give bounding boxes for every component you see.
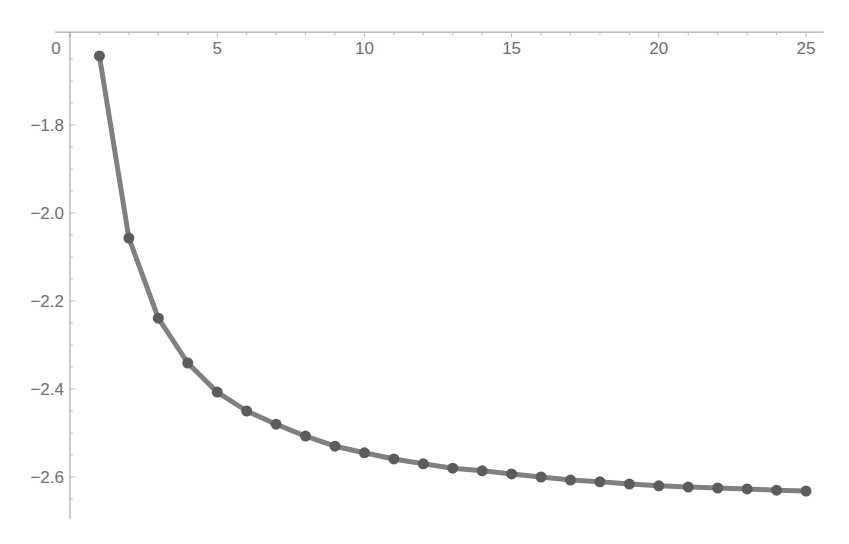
data-point	[271, 419, 282, 430]
data-point	[712, 483, 723, 494]
x-tick-label: 20	[649, 39, 668, 58]
y-tick-label: −2.2	[30, 292, 64, 311]
y-tick-label: −1.8	[30, 116, 64, 135]
y-axis: −1.8−2.0−2.2−2.4−2.6	[30, 32, 75, 519]
y-tick-label: −2.0	[30, 204, 64, 223]
x-axis: 0510152025	[51, 32, 823, 58]
y-tick-label: −2.6	[30, 468, 64, 487]
data-point	[329, 441, 340, 452]
x-tick-label: 10	[355, 39, 374, 58]
data-point	[212, 387, 223, 398]
data-point	[771, 485, 782, 496]
series-line	[99, 56, 806, 491]
x-tick-label: 5	[212, 39, 221, 58]
data-point	[94, 50, 105, 61]
data-point	[300, 431, 311, 442]
data-point	[506, 468, 517, 479]
data-point	[477, 465, 488, 476]
data-point	[683, 482, 694, 493]
data-point	[565, 475, 576, 486]
data-point	[594, 476, 605, 487]
data-point	[388, 453, 399, 464]
data-point	[123, 233, 134, 244]
x-tick-label: 15	[502, 39, 521, 58]
data-point	[742, 483, 753, 494]
x-tick-label: 0	[51, 39, 60, 58]
data-point	[153, 313, 164, 324]
data-point	[241, 406, 252, 417]
data-point	[536, 472, 547, 483]
data-point	[359, 447, 370, 458]
data-point	[182, 358, 193, 369]
data-point	[418, 458, 429, 469]
data-series	[94, 50, 812, 496]
y-tick-label: −2.4	[30, 380, 64, 399]
data-point	[653, 480, 664, 491]
data-point	[624, 479, 635, 490]
x-tick-label: 25	[797, 39, 816, 58]
data-point	[801, 486, 812, 497]
data-point	[447, 463, 458, 474]
line-chart: 0510152025 −1.8−2.0−2.2−2.4−2.6	[0, 0, 849, 544]
